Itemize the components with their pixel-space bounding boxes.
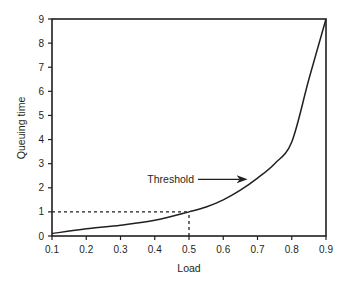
y-tick-label: 9 xyxy=(38,14,44,25)
threshold-label: Threshold xyxy=(147,173,194,185)
y-tick-label: 4 xyxy=(38,134,44,145)
threshold-annotation: Threshold xyxy=(147,173,247,185)
y-tick-label: 8 xyxy=(38,38,44,49)
y-axis-ticks: 0123456789 xyxy=(38,14,52,242)
plot-frame xyxy=(52,19,326,236)
x-tick-label: 0.6 xyxy=(216,244,230,255)
y-tick-label: 3 xyxy=(38,158,44,169)
y-tick-label: 5 xyxy=(38,110,44,121)
x-tick-label: 0.2 xyxy=(79,244,93,255)
x-tick-label: 0.7 xyxy=(251,244,265,255)
x-axis-title: Load xyxy=(177,262,201,274)
x-tick-label: 0.3 xyxy=(114,244,128,255)
queuing-time-chart: 0.10.20.30.40.50.60.70.80.9 0123456789 L… xyxy=(0,0,349,288)
y-tick-label: 2 xyxy=(38,182,44,193)
x-tick-label: 0.5 xyxy=(182,244,196,255)
y-tick-label: 0 xyxy=(38,231,44,242)
data-series-line xyxy=(52,19,326,234)
x-tick-label: 0.9 xyxy=(319,244,333,255)
y-tick-label: 1 xyxy=(38,206,44,217)
y-axis-title: Queuing time xyxy=(15,97,27,160)
threshold-reference-lines xyxy=(52,212,189,236)
x-axis-ticks: 0.10.20.30.40.50.60.70.80.9 xyxy=(45,236,333,255)
x-tick-label: 0.1 xyxy=(45,244,59,255)
x-tick-label: 0.8 xyxy=(285,244,299,255)
y-tick-label: 7 xyxy=(38,62,44,73)
y-tick-label: 6 xyxy=(38,86,44,97)
x-tick-label: 0.4 xyxy=(148,244,162,255)
